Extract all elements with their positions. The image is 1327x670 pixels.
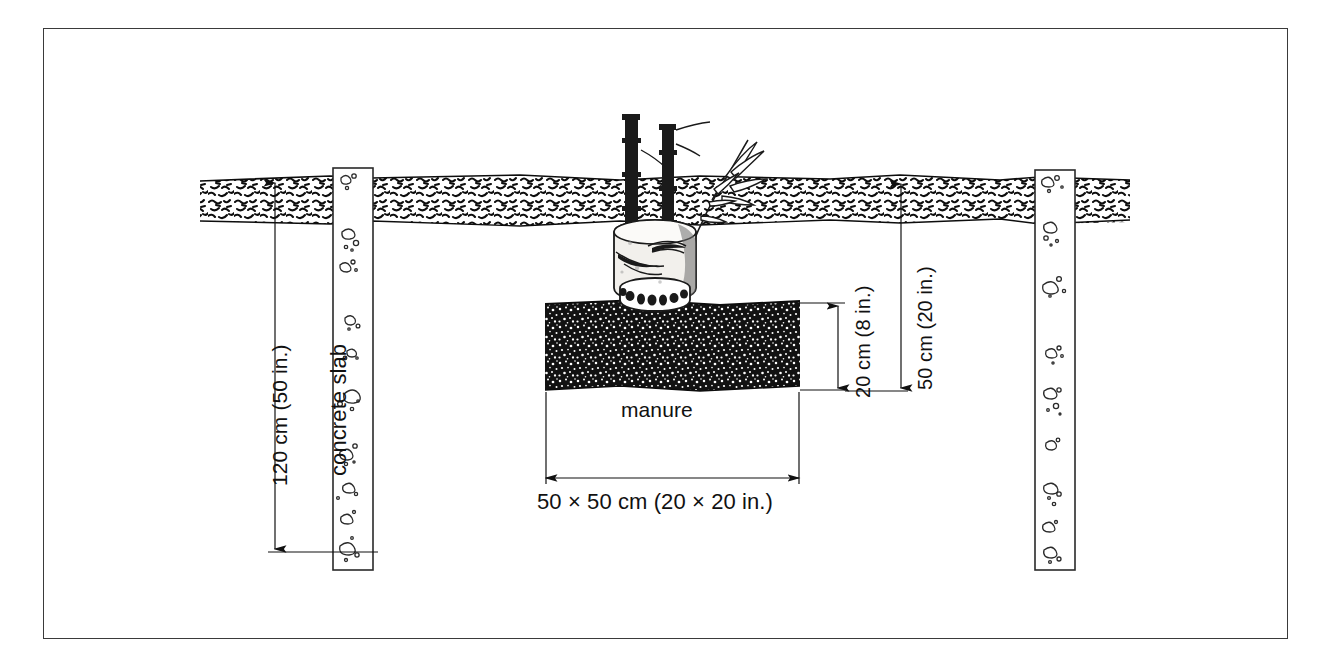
- diagram-canvas: [0, 0, 1327, 670]
- rhizome-ball: [614, 220, 696, 311]
- label-manure-thickness: 20 cm (8 in.): [852, 286, 875, 398]
- label-hole-depth: 50 cm (20 in.): [914, 266, 937, 390]
- figure-page: 120 cm (50 in.) concrete slab 20 cm (8 i…: [0, 0, 1327, 670]
- dimension-manure-thickness: [800, 303, 845, 390]
- label-manure-footprint: 50 × 50 cm (20 × 20 in.): [537, 489, 773, 515]
- label-manure: manure: [621, 398, 693, 422]
- label-slab-depth: 120 cm (50 in.): [268, 344, 292, 486]
- label-concrete-slab: concrete slab: [326, 344, 352, 476]
- manure-bed: [543, 298, 803, 394]
- concrete-slab-right: [1035, 170, 1075, 570]
